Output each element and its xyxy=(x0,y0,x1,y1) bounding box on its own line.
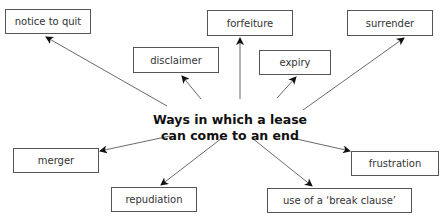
node-surrender: surrender xyxy=(347,10,433,36)
node-label: forfeiture xyxy=(227,18,274,29)
arrow-to-break-clause xyxy=(252,138,312,186)
node-label: frustration xyxy=(369,158,422,169)
arrow-to-disclaimer xyxy=(182,76,201,99)
center-title-line2: can come to an end xyxy=(140,128,320,144)
node-label: merger xyxy=(38,155,74,166)
node-label: notice to quit xyxy=(15,16,82,27)
node-break-clause: use of a ‘break clause’ xyxy=(267,188,412,213)
node-notice-to-quit: notice to quit xyxy=(5,9,91,34)
node-label: use of a ‘break clause’ xyxy=(283,195,396,206)
node-label: surrender xyxy=(366,18,414,29)
node-disclaimer: disclaimer xyxy=(133,47,219,73)
node-label: disclaimer xyxy=(150,55,202,66)
center-title: Ways in which a lease can come to an end xyxy=(140,112,320,144)
node-expiry: expiry xyxy=(259,50,331,75)
node-forfeiture: forfeiture xyxy=(207,10,293,36)
arrow-to-repudiation xyxy=(161,138,222,185)
center-title-line1: Ways in which a lease xyxy=(140,112,320,128)
node-label: repudiation xyxy=(125,194,182,205)
node-merger: merger xyxy=(13,148,99,173)
node-frustration: frustration xyxy=(351,151,439,176)
arrow-to-expiry xyxy=(277,77,296,98)
node-repudiation: repudiation xyxy=(111,187,197,212)
node-label: expiry xyxy=(279,57,310,68)
